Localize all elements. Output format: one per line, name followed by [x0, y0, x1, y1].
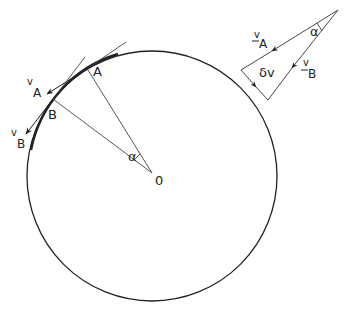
- triangle-vb-subscript: B: [308, 67, 316, 81]
- triangle-vector-delta-v: [241, 70, 256, 87]
- radius-oa: [88, 70, 152, 173]
- radius-ob: [53, 99, 152, 173]
- triangle-va-subscript: A: [259, 37, 268, 51]
- vector-triangle: [241, 10, 338, 100]
- circular-path: [27, 51, 277, 301]
- arc-segment-ab: [31, 54, 118, 150]
- tangent-line-b: [53, 57, 85, 99]
- velocity-b-subscript: B: [17, 137, 25, 151]
- velocity-a-subscript: A: [33, 86, 42, 100]
- delta-v-label: δv: [259, 65, 275, 80]
- point-b-label: B: [48, 107, 57, 122]
- triangle-alpha-label: α: [310, 24, 319, 39]
- angle-alpha-label: α: [128, 149, 137, 164]
- point-a-label: A: [93, 64, 102, 79]
- triangle-vector-va: [272, 10, 338, 51]
- center-label: 0: [155, 173, 163, 188]
- velocity-vector-a: [47, 68, 88, 94]
- circular-motion-diagram: A B 0 α v A v B v A v B δv α: [0, 0, 352, 315]
- triangle-vector-vb: [292, 10, 338, 68]
